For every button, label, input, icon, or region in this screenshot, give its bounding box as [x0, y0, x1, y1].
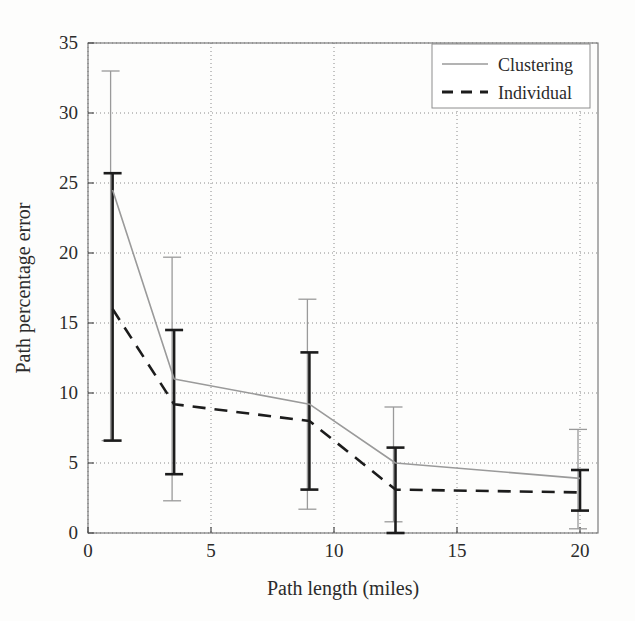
- x-tick-label: 10: [325, 540, 344, 561]
- series-line-individual: [113, 309, 580, 492]
- tick-labels: 0510152025303505101520Path length (miles…: [12, 32, 590, 600]
- y-tick-label: 5: [69, 452, 79, 473]
- error-bar: [569, 429, 587, 528]
- data-lines: [113, 190, 580, 492]
- plot-border: [88, 43, 598, 533]
- axis-frame: [88, 43, 598, 533]
- error-bar: [571, 470, 589, 511]
- x-axis-title: Path length (miles): [267, 577, 419, 600]
- y-tick-label: 30: [59, 102, 78, 123]
- error-bar: [385, 407, 403, 522]
- error-bar: [104, 173, 122, 440]
- legend: ClusteringIndividual: [432, 44, 590, 108]
- legend-label: Individual: [498, 83, 572, 103]
- y-tick-label: 35: [59, 32, 78, 53]
- chart-figure: 0510152025303505101520Path length (miles…: [0, 0, 635, 621]
- x-tick-label: 5: [206, 540, 216, 561]
- chart-plot-area: 0510152025303505101520Path length (miles…: [0, 0, 635, 621]
- x-tick-label: 0: [83, 540, 93, 561]
- y-axis-title: Path percentage error: [12, 202, 35, 373]
- x-tick-label: 20: [571, 540, 590, 561]
- error-bar: [102, 71, 120, 441]
- grid-lines: [88, 43, 598, 533]
- error-bars: [102, 71, 589, 533]
- y-tick-label: 15: [59, 312, 78, 333]
- series-line-clustering: [113, 190, 580, 478]
- y-tick-label: 10: [59, 382, 78, 403]
- x-tick-label: 15: [448, 540, 467, 561]
- y-tick-label: 20: [59, 242, 78, 263]
- y-tick-label: 25: [59, 172, 78, 193]
- y-tick-label: 0: [69, 522, 79, 543]
- legend-label: Clustering: [498, 55, 573, 75]
